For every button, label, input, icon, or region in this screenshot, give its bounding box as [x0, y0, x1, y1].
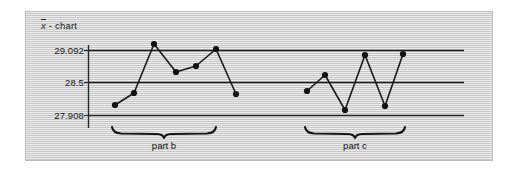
chart-panel	[25, 11, 493, 161]
ytick-label-lcl: 27.908	[32, 110, 84, 121]
xbar-chart-figure: x - chart 29.092 28.5 27.908 part b part…	[0, 0, 515, 174]
group-label-part-c: part c	[303, 140, 407, 151]
chart-title-suffix: - chart	[46, 20, 77, 31]
group-label-part-b: part b	[112, 140, 216, 151]
ytick-label-center: 28.5	[32, 77, 84, 88]
x-bar-symbol: x	[41, 20, 46, 31]
ytick-label-ucl: 29.092	[32, 45, 84, 56]
chart-title: x - chart	[41, 20, 77, 31]
